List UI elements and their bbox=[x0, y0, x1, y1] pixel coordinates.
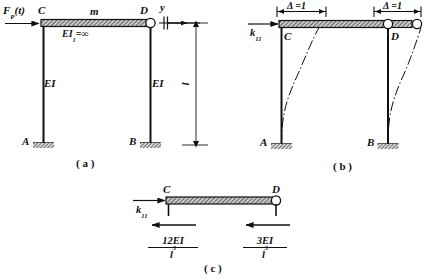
mass-label-m: m bbox=[90, 6, 99, 17]
stiffness-label-k11-b: k11 bbox=[250, 28, 261, 41]
panel-c-graphics bbox=[133, 196, 290, 225]
rigid-beam-free-body bbox=[166, 197, 279, 204]
beam-stub-d-displaced bbox=[390, 21, 412, 28]
fraction-denominator-right: l3 bbox=[243, 248, 287, 260]
node-label-d-c: D bbox=[272, 184, 280, 195]
hinge-node-d-b bbox=[383, 19, 392, 28]
fraction-denominator-left: l3 bbox=[148, 248, 198, 260]
panel-caption-c: ( c ) bbox=[204, 262, 222, 274]
hinge-node-d-c bbox=[271, 196, 280, 205]
support-hatch-b-b bbox=[378, 144, 399, 149]
figure-canvas bbox=[0, 0, 428, 280]
column-right-stiffness-label: EI bbox=[152, 78, 164, 89]
rigid-beam-cd bbox=[41, 20, 153, 27]
stiffness-label-k11-c: k11 bbox=[136, 205, 147, 218]
dim-arrow-up bbox=[193, 21, 199, 28]
support-hatch-b bbox=[140, 143, 161, 148]
beam-stiffness-label: EI1=∞ bbox=[62, 29, 88, 41]
support-hatch-a bbox=[33, 143, 54, 148]
height-dimension-label: l bbox=[179, 82, 191, 85]
deflection-curve-left bbox=[282, 28, 320, 145]
reaction-value-left: 12EI l3 bbox=[148, 235, 198, 260]
delta-right-label: Δ =1 bbox=[383, 1, 402, 11]
panel-b-graphics bbox=[248, 7, 422, 150]
node-label-c-c: C bbox=[163, 184, 170, 195]
panel-caption-b: ( b ) bbox=[333, 160, 352, 172]
node-label-c-b: C bbox=[284, 31, 291, 42]
reaction-value-right: 3EI l3 bbox=[243, 235, 287, 260]
column-left-stiffness-label: EI bbox=[44, 78, 56, 89]
figure-root: FP(t) C m D y EI1=∞ EI EI l A B ( a ) Δ … bbox=[0, 0, 428, 280]
support-label-a: A bbox=[22, 136, 29, 147]
force-label-fp: FP(t) bbox=[3, 5, 25, 19]
support-label-b: B bbox=[129, 136, 136, 147]
node-label-d-b: D bbox=[391, 31, 399, 42]
panel-caption-a: ( a ) bbox=[76, 157, 94, 169]
hinge-node-d bbox=[146, 18, 155, 27]
dim-arrow-down bbox=[193, 141, 199, 148]
support-hatch-a-b bbox=[271, 144, 292, 149]
support-label-b-b: B bbox=[367, 137, 374, 148]
hinge-node-d-displaced-b bbox=[412, 19, 421, 28]
deflection-curve-right bbox=[388, 28, 421, 145]
coordinate-label-y: y bbox=[160, 3, 165, 14]
delta-left-label: Δ =1 bbox=[287, 1, 306, 11]
rigid-beam-cd-displaced bbox=[279, 21, 386, 28]
support-label-a-b: A bbox=[260, 137, 267, 148]
node-label-d-a: D bbox=[140, 5, 148, 16]
node-label-c-a: C bbox=[38, 5, 45, 16]
